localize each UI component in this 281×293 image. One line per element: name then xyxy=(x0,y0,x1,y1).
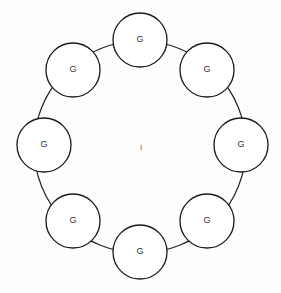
node-n-bottom-right: G xyxy=(180,194,234,248)
node-n-top: G xyxy=(113,13,167,67)
node-n-right: G xyxy=(214,118,268,172)
node-label: G xyxy=(40,139,47,149)
node-n-bottom-left: G xyxy=(46,194,100,248)
node-label: G xyxy=(203,215,210,225)
node-label: G xyxy=(136,246,143,256)
node-n-bottom: G xyxy=(113,225,167,279)
diagram-svg: GGGGGGGG I xyxy=(0,0,281,293)
node-n-left: G xyxy=(17,118,71,172)
node-label: G xyxy=(136,34,143,44)
node-n-top-left: G xyxy=(46,43,100,97)
node-n-top-right: G xyxy=(180,43,234,97)
nodes-group: GGGGGGGG xyxy=(17,13,268,279)
ring-diagram: GGGGGGGG I xyxy=(0,0,281,293)
node-label: G xyxy=(69,64,76,74)
node-label: G xyxy=(237,139,244,149)
node-label: G xyxy=(203,64,210,74)
node-label: G xyxy=(69,215,76,225)
center-label: I xyxy=(140,143,142,152)
